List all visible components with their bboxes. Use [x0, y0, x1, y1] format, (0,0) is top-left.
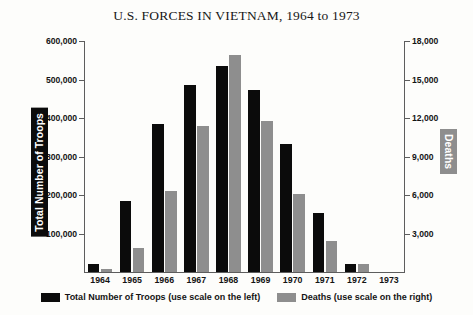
left-tick: [79, 195, 84, 196]
bar-deaths: [197, 126, 209, 272]
left-tick: [79, 80, 84, 81]
bar-troops: [152, 124, 164, 272]
bar-group: [248, 41, 273, 272]
bar-group: [280, 41, 305, 272]
right-tick: [405, 234, 410, 235]
right-tick: [405, 80, 410, 81]
legend-item-deaths: Deaths (use scale on the right): [277, 292, 432, 302]
left-tick-label: 200,000: [46, 191, 77, 200]
x-axis-label: 1966: [146, 275, 182, 285]
bar-deaths: [293, 194, 305, 272]
x-axis-label: 1964: [82, 275, 118, 285]
left-tick: [79, 157, 84, 158]
left-tick: [79, 234, 84, 235]
left-tick-label: 100,000: [46, 230, 77, 239]
left-tick-label: 300,000: [46, 153, 77, 162]
plot-area: 100,000200,000300,000400,000500,000600,0…: [84, 41, 405, 272]
bar-troops: [280, 144, 292, 272]
left-tick-label: 600,000: [46, 37, 77, 46]
bar-deaths: [229, 55, 241, 272]
bar-group: [120, 41, 145, 272]
chart-title: U.S. FORCES IN VIETNAM, 1964 to 1973: [0, 8, 473, 24]
legend-swatch-deaths: [277, 293, 296, 302]
left-tick-label: 400,000: [46, 114, 77, 123]
legend-item-troops: Total Number of Troops (use scale on the…: [41, 292, 260, 302]
bar-group: [152, 41, 177, 272]
bar-troops: [216, 66, 228, 272]
bar-group: [377, 41, 402, 272]
right-tick-label: 12,000: [412, 114, 438, 123]
bar-deaths: [358, 264, 370, 272]
left-axis-line: [84, 41, 85, 272]
x-axis-label: 1973: [371, 275, 407, 285]
bar-troops: [248, 90, 260, 272]
bar-group: [88, 41, 113, 272]
bar-troops: [120, 201, 132, 272]
bottom-axis-line: [84, 272, 405, 273]
right-tick-label: 9,000: [412, 153, 434, 162]
bar-deaths: [261, 121, 273, 272]
bar-group: [216, 41, 241, 272]
x-axis-label: 1972: [339, 275, 375, 285]
bar-troops: [313, 213, 325, 272]
bar-deaths: [326, 241, 338, 272]
right-tick: [405, 195, 410, 196]
x-axis-label: 1968: [210, 275, 246, 285]
right-tick-label: 18,000: [412, 37, 438, 46]
bar-deaths: [133, 248, 145, 272]
bar-group: [345, 41, 370, 272]
x-axis-label: 1970: [275, 275, 311, 285]
bar-deaths: [165, 191, 177, 272]
chart-legend: Total Number of Troops (use scale on the…: [0, 292, 473, 302]
x-axis-label: 1971: [307, 275, 343, 285]
legend-label-troops: Total Number of Troops (use scale on the…: [65, 292, 260, 302]
bar-troops: [184, 85, 196, 272]
x-axis-label: 1967: [178, 275, 214, 285]
left-tick-label: 500,000: [46, 76, 77, 85]
right-tick-label: 15,000: [412, 76, 438, 85]
right-tick: [405, 41, 410, 42]
left-axis-title: Total Number of Troops: [31, 108, 48, 237]
x-axis-label: 1965: [114, 275, 150, 285]
legend-label-deaths: Deaths (use scale on the right): [301, 292, 432, 302]
bar-troops: [345, 264, 357, 272]
right-tick: [405, 157, 410, 158]
right-axis-title: Deaths: [440, 129, 457, 174]
bar-group: [313, 41, 338, 272]
right-tick-label: 6,000: [412, 191, 434, 200]
bar-troops: [88, 264, 100, 272]
right-tick: [405, 118, 410, 119]
x-axis-label: 1969: [243, 275, 279, 285]
right-tick-label: 3,000: [412, 230, 434, 239]
left-tick: [79, 118, 84, 119]
legend-swatch-troops: [41, 293, 60, 302]
chart-figure: U.S. FORCES IN VIETNAM, 1964 to 1973 100…: [0, 0, 473, 315]
bar-deaths: [101, 269, 113, 272]
bar-group: [184, 41, 209, 272]
left-tick: [79, 41, 84, 42]
